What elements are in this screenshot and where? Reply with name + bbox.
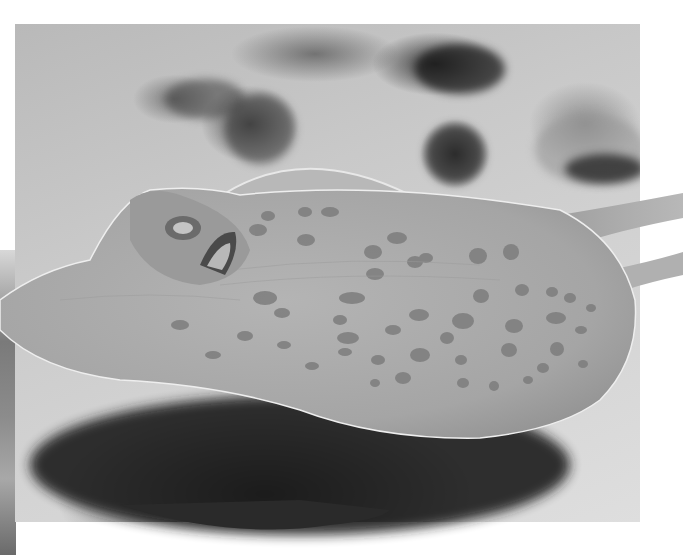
ray-body: [0, 188, 636, 438]
ray-eye-pupil: [173, 222, 193, 234]
stingray-illustration: [0, 0, 683, 555]
